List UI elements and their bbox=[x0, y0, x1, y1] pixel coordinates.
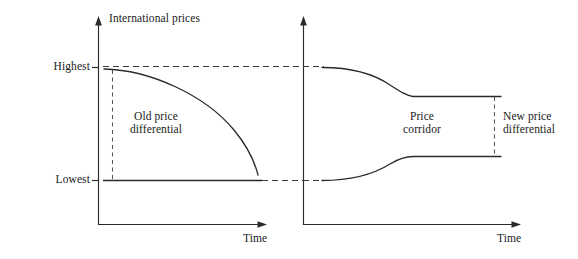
right-x-axis-arrowhead bbox=[512, 221, 522, 228]
right-y-axis-arrowhead bbox=[300, 16, 307, 26]
left-tick-label-highest: Highest bbox=[6, 60, 90, 74]
new-price-differential-label-line2: differential bbox=[503, 123, 555, 137]
left-x-axis-arrowhead bbox=[258, 221, 268, 228]
old-price-differential-label-line1: Old price bbox=[113, 110, 199, 124]
price-corridor-label-line2: corridor bbox=[390, 123, 454, 137]
left-y-axis-arrowhead bbox=[95, 16, 102, 26]
figure-root: International prices Highest Lowest Old … bbox=[0, 0, 578, 259]
left-x-axis-title: Time bbox=[243, 232, 267, 246]
new-price-differential-label-line1: New price bbox=[503, 110, 551, 124]
left-y-axis-title: International prices bbox=[109, 12, 200, 26]
diagram-canvas bbox=[0, 0, 578, 259]
old-price-differential-label-line2: differential bbox=[113, 123, 199, 137]
right-upper-price-curve bbox=[322, 68, 501, 97]
right-lower-price-curve bbox=[322, 157, 501, 181]
price-corridor-label-line1: Price bbox=[390, 110, 454, 124]
right-x-axis-title: Time bbox=[497, 232, 521, 246]
left-tick-label-lowest: Lowest bbox=[6, 173, 90, 187]
